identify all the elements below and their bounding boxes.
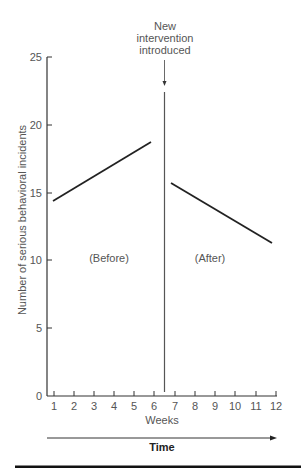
svg-text:5: 5 (36, 322, 42, 334)
chart: 25 20 15 10 5 0 1 2 3 4 5 6 7 8 9 10 11 … (0, 0, 301, 476)
svg-text:5: 5 (131, 400, 137, 412)
intervention-annotation: New intervention introduced (137, 20, 194, 56)
svg-text:15: 15 (30, 187, 42, 199)
svg-text:20: 20 (30, 119, 42, 131)
bottom-rule (15, 466, 301, 469)
svg-text:intervention: intervention (137, 32, 194, 44)
svg-text:8: 8 (192, 400, 198, 412)
time-label: Time (149, 441, 174, 453)
svg-text:7: 7 (172, 400, 178, 412)
svg-text:25: 25 (30, 51, 42, 63)
svg-text:New: New (154, 20, 176, 32)
svg-text:1: 1 (51, 400, 57, 412)
y-tick-labels: 25 20 15 10 5 0 (30, 51, 42, 402)
svg-text:0: 0 (36, 390, 42, 402)
svg-text:3: 3 (91, 400, 97, 412)
x-axis-title: Weeks (145, 414, 179, 426)
y-ticks (47, 57, 52, 328)
after-label: (After) (195, 252, 226, 264)
y-axis-title: Number of serious behavioral incidents (16, 124, 28, 315)
svg-text:9: 9 (212, 400, 218, 412)
svg-text:12: 12 (270, 400, 282, 412)
svg-text:2: 2 (71, 400, 77, 412)
series-before-line (53, 142, 151, 201)
svg-text:4: 4 (111, 400, 117, 412)
svg-text:10: 10 (229, 400, 241, 412)
before-label: (Before) (89, 252, 129, 264)
svg-text:10: 10 (30, 254, 42, 266)
svg-text:6: 6 (151, 400, 157, 412)
svg-text:11: 11 (250, 400, 261, 412)
arrow-right-icon (270, 436, 277, 441)
series-after-line (171, 183, 272, 243)
svg-text:introduced: introduced (139, 44, 190, 56)
x-tick-labels: 1 2 3 4 5 6 7 8 9 10 11 12 (51, 400, 282, 412)
arrow-down-icon (163, 81, 167, 86)
